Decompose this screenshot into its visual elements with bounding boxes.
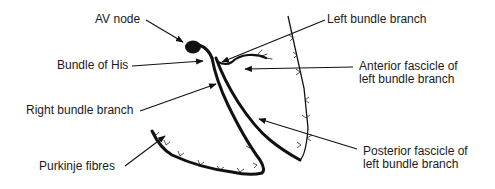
label-posterior-fascicle: Posterior fascicle of left bundle branch — [363, 145, 468, 171]
bundle-branches — [152, 45, 300, 174]
label-right-bundle-branch: Right bundle branch — [26, 104, 133, 117]
anterior-fascicle-line2: left bundle branch — [359, 73, 458, 86]
purkinje-fibres-pointer — [125, 136, 165, 166]
label-purkinje-fibres: Purkinje fibres — [39, 160, 115, 173]
av-node-shape — [185, 41, 201, 54]
label-left-bundle-branch: Left bundle branch — [327, 13, 426, 26]
av-node-pointer — [146, 20, 183, 42]
label-bundle-of-his: Bundle of His — [57, 59, 128, 72]
right-bundle-branch-pointer — [140, 84, 216, 111]
posterior-fascicle-line2: left bundle branch — [363, 158, 468, 171]
left-ventricle-wall — [270, 16, 312, 160]
left-bundle-branch-pointer — [222, 20, 325, 62]
bundle-of-his-pointer — [132, 61, 203, 66]
label-av-node: AV node — [95, 13, 140, 26]
label-anterior-fascicle: Anterior fascicle of left bundle branch — [359, 60, 458, 86]
